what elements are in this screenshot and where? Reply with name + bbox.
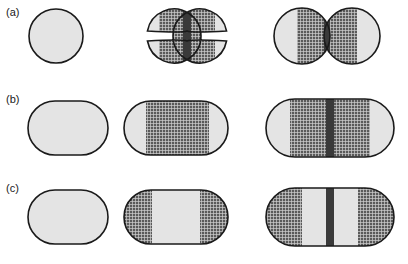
shapes-layer [28,6,394,248]
stage-c3 [266,186,394,248]
cell-division-figure: (a)(b)(c) [0,0,408,264]
septum-band-0 [326,186,334,248]
stage-b3 [266,97,394,159]
stage-c2 [124,188,228,246]
septum-band-0 [183,7,191,65]
septum-band-0 [326,97,334,159]
stage-c1 [28,190,108,244]
panel-label-0: (a) [6,6,19,18]
stage-a1 [29,9,83,63]
cell-body [28,101,108,155]
hatched-band-0 [146,99,209,157]
cell-body [28,190,108,244]
stage-b2 [124,99,228,157]
stage-b1 [28,101,108,155]
panel-label-1: (b) [6,93,19,105]
panel-label-2: (c) [6,182,19,194]
